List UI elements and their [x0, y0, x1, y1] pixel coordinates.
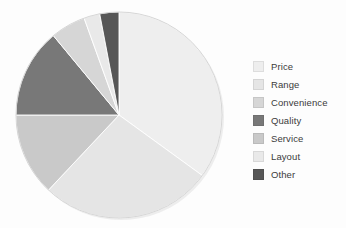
legend-swatch-service [253, 133, 264, 144]
legend-label: Price [271, 61, 293, 72]
legend-label: Service [271, 133, 303, 144]
pie-slice-group [16, 12, 222, 218]
legend-label: Convenience [271, 97, 328, 108]
pie-plot-area [8, 4, 232, 228]
legend-swatch-other [253, 169, 264, 180]
legend-swatch-range [253, 79, 264, 90]
legend-item-range[interactable]: Range [253, 75, 343, 93]
legend-item-quality[interactable]: Quality [253, 111, 343, 129]
legend-item-price[interactable]: Price [253, 57, 343, 75]
legend-item-layout[interactable]: Layout [253, 147, 343, 165]
legend-swatch-layout [253, 151, 264, 162]
legend-label: Other [271, 169, 295, 180]
legend-item-other[interactable]: Other [253, 165, 343, 183]
legend-swatch-quality [253, 115, 264, 126]
legend-item-service[interactable]: Service [253, 129, 343, 147]
legend-label: Layout [271, 151, 300, 162]
legend-label: Quality [271, 115, 301, 126]
legend-swatch-convenience [253, 97, 264, 108]
legend-item-convenience[interactable]: Convenience [253, 93, 343, 111]
legend-label: Range [271, 79, 300, 90]
pie-svg [8, 4, 232, 228]
legend-swatch-price [253, 61, 264, 72]
chart-legend: PriceRangeConvenienceQualityServiceLayou… [253, 57, 343, 183]
pie-chart-figure: PriceRangeConvenienceQualityServiceLayou… [0, 0, 346, 228]
